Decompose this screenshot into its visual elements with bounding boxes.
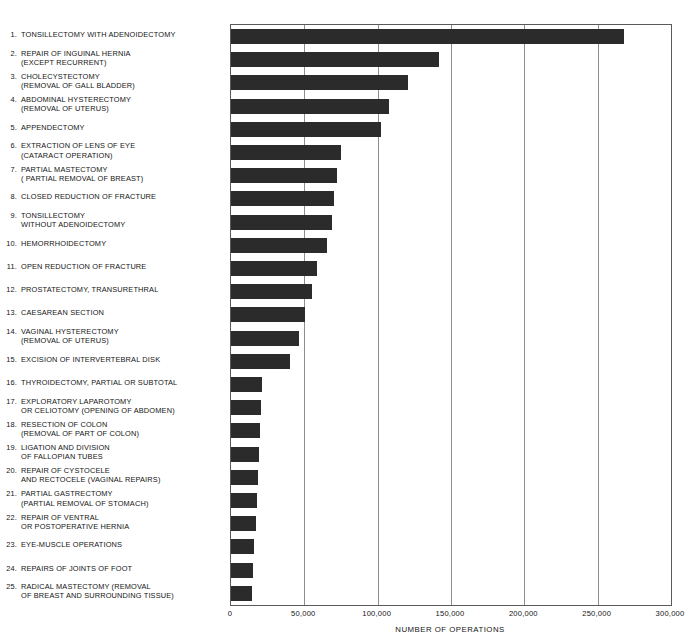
category-label: REPAIR OF VENTRAL OR POSTOPERATIVE HERNI… (21, 513, 222, 531)
category-label: CAESAREAN SECTION (21, 308, 222, 317)
bar (231, 75, 408, 90)
x-axis-title: NUMBER OF OPERATIONS (230, 625, 670, 634)
category-label-row: 18.RESECTION OF COLON (REMOVAL OF PART O… (0, 420, 222, 438)
category-label: CHOLECYSTECTOMY (REMOVAL OF GALL BLADDER… (21, 72, 222, 90)
category-label: EXPLORATORY LAPAROTOMY OR CELIOTOMY (OPE… (21, 397, 222, 415)
category-label-row: 13.CAESAREAN SECTION (0, 308, 222, 317)
bar (231, 191, 334, 206)
bar (231, 563, 253, 578)
bar (231, 331, 299, 346)
category-label-row: 10.HEMORRHOIDECTOMY (0, 239, 222, 248)
category-rank: 15. (0, 355, 21, 364)
category-label-row: 12.PROSTATECTOMY, TRANSURETHRAL (0, 285, 222, 294)
category-label-row: 3.CHOLECYSTECTOMY (REMOVAL OF GALL BLADD… (0, 72, 222, 90)
bar (231, 307, 305, 322)
category-rank: 23. (0, 540, 21, 549)
category-label: EXCISION OF INTERVERTEBRAL DISK (21, 355, 222, 364)
category-rank: 17. (0, 397, 21, 406)
bar (231, 52, 439, 67)
category-label-row: 15.EXCISION OF INTERVERTEBRAL DISK (0, 355, 222, 364)
bar (231, 122, 381, 137)
x-tick-label: 250,000 (582, 609, 611, 618)
category-label: THYROIDECTOMY, PARTIAL OR SUBTOTAL (21, 378, 222, 387)
category-label: HEMORRHOIDECTOMY (21, 239, 222, 248)
category-label-row: 17.EXPLORATORY LAPAROTOMY OR CELIOTOMY (… (0, 397, 222, 415)
bar (231, 29, 624, 44)
category-label: PROSTATECTOMY, TRANSURETHRAL (21, 285, 222, 294)
category-label-row: 9.TONSILLECTOMY WITHOUT ADENOIDECTOMY (0, 211, 222, 229)
category-label: REPAIR OF INGUINAL HERNIA (EXCEPT RECURR… (21, 49, 222, 67)
bar (231, 447, 259, 462)
bar (231, 423, 260, 438)
category-rank: 16. (0, 378, 21, 387)
x-tick-label: 150,000 (436, 609, 465, 618)
category-rank: 25. (0, 582, 21, 591)
category-label: VAGINAL HYSTERECTOMY (REMOVAL OF UTERUS) (21, 327, 222, 345)
category-label-row: 1.TONSILLECTOMY WITH ADENOIDECTOMY (0, 30, 222, 39)
category-label-row: 25.RADICAL MASTECTOMY (REMOVAL OF BREAST… (0, 582, 222, 600)
category-label: TONSILLECTOMY WITHOUT ADENOIDECTOMY (21, 211, 222, 229)
category-rank: 6. (0, 141, 21, 150)
x-tick-label: 300,000 (656, 609, 685, 618)
bar (231, 470, 258, 485)
category-label: EYE-MUSCLE OPERATIONS (21, 540, 222, 549)
category-label-column: 1.TONSILLECTOMY WITH ADENOIDECTOMY2.REPA… (0, 24, 222, 604)
bar (231, 586, 252, 601)
x-tick-label: 50,000 (291, 609, 315, 618)
bar (231, 215, 332, 230)
category-label: ABDOMINAL HYSTERECTOMY (REMOVAL OF UTERU… (21, 95, 222, 113)
category-rank: 7. (0, 165, 21, 174)
category-label-row: 22.REPAIR OF VENTRAL OR POSTOPERATIVE HE… (0, 513, 222, 531)
bar (231, 516, 256, 531)
category-rank: 24. (0, 564, 21, 573)
category-label: PARTIAL GASTRECTOMY (PARTIAL REMOVAL OF … (21, 489, 222, 507)
category-label: RESECTION OF COLON (REMOVAL OF PART OF C… (21, 420, 222, 438)
category-label: LIGATION AND DIVISION OF FALLOPIAN TUBES (21, 443, 222, 461)
category-label-row: 2.REPAIR OF INGUINAL HERNIA (EXCEPT RECU… (0, 49, 222, 67)
category-label-row: 16.THYROIDECTOMY, PARTIAL OR SUBTOTAL (0, 378, 222, 387)
category-rank: 9. (0, 211, 21, 220)
category-rank: 21. (0, 489, 21, 498)
bar (231, 539, 254, 554)
category-label-row: 4.ABDOMINAL HYSTERECTOMY (REMOVAL OF UTE… (0, 95, 222, 113)
x-tick-label: 0 (228, 609, 232, 618)
x-tick-label: 200,000 (509, 609, 538, 618)
x-tick-label: 100,000 (362, 609, 391, 618)
category-label: OPEN REDUCTION OF FRACTURE (21, 262, 222, 271)
category-label-row: 11.OPEN REDUCTION OF FRACTURE (0, 262, 222, 271)
category-label: REPAIRS OF JOINTS OF FOOT (21, 564, 222, 573)
bar (231, 354, 290, 369)
bar (231, 99, 389, 114)
category-rank: 20. (0, 466, 21, 475)
operations-bar-chart: 1.TONSILLECTOMY WITH ADENOIDECTOMY2.REPA… (0, 0, 698, 644)
bar (231, 493, 257, 508)
bar (231, 145, 341, 160)
category-rank: 19. (0, 443, 21, 452)
category-label-row: 19.LIGATION AND DIVISION OF FALLOPIAN TU… (0, 443, 222, 461)
category-label-row: 5.APPENDECTOMY (0, 123, 222, 132)
category-label-row: 6.EXTRACTION OF LENS OF EYE (CATARACT OP… (0, 141, 222, 159)
category-label: EXTRACTION OF LENS OF EYE (CATARACT OPER… (21, 141, 222, 159)
category-rank: 10. (0, 239, 21, 248)
category-rank: 13. (0, 308, 21, 317)
gridline (451, 25, 452, 605)
bar (231, 377, 262, 392)
category-label-row: 20.REPAIR OF CYSTOCELE AND RECTOCELE (VA… (0, 466, 222, 484)
category-rank: 8. (0, 192, 21, 201)
category-rank: 12. (0, 285, 21, 294)
bar (231, 238, 327, 253)
category-label-row: 14.VAGINAL HYSTERECTOMY (REMOVAL OF UTER… (0, 327, 222, 345)
category-label-row: 23.EYE-MUSCLE OPERATIONS (0, 540, 222, 549)
category-label: RADICAL MASTECTOMY (REMOVAL OF BREAST AN… (21, 582, 222, 600)
bar (231, 400, 261, 415)
category-label-row: 8.CLOSED REDUCTION OF FRACTURE (0, 192, 222, 201)
category-rank: 18. (0, 420, 21, 429)
category-label: CLOSED REDUCTION OF FRACTURE (21, 192, 222, 201)
gridline (598, 25, 599, 605)
category-label-row: 7.PARTIAL MASTECTOMY ( PARTIAL REMOVAL O… (0, 165, 222, 183)
category-rank: 5. (0, 123, 21, 132)
category-label-row: 21.PARTIAL GASTRECTOMY (PARTIAL REMOVAL … (0, 489, 222, 507)
category-rank: 22. (0, 513, 21, 522)
category-label: PARTIAL MASTECTOMY ( PARTIAL REMOVAL OF … (21, 165, 222, 183)
category-label-row: 24.REPAIRS OF JOINTS OF FOOT (0, 564, 222, 573)
